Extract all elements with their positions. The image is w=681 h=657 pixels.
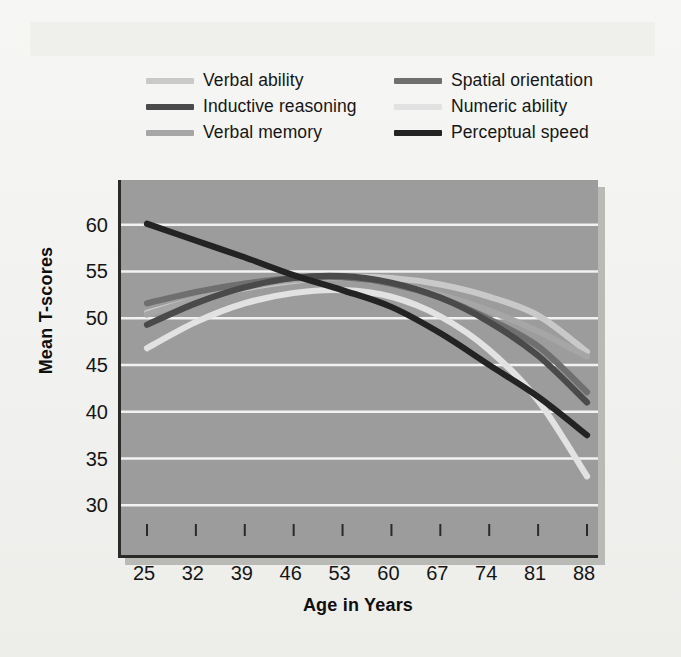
legend-item[interactable]: Numeric ability <box>394 94 604 120</box>
legend-swatch <box>394 78 442 84</box>
legend-label: Inductive reasoning <box>203 98 357 116</box>
legend-swatch <box>146 130 194 136</box>
plot-svg <box>121 180 598 555</box>
plot-area <box>118 180 598 558</box>
legend-label: Verbal ability <box>203 72 304 90</box>
y-axis-title: Mean T-scores <box>36 221 57 401</box>
page-artifact-band <box>30 22 655 56</box>
x-tick-label: 88 <box>573 562 595 585</box>
x-tick-label: 74 <box>475 562 497 585</box>
legend-swatch <box>146 104 194 110</box>
chart-legend: Verbal abilityInductive reasoningVerbal … <box>146 68 566 146</box>
y-tick-label: 45 <box>68 354 108 377</box>
legend-item[interactable]: Inductive reasoning <box>146 94 356 120</box>
legend-swatch <box>394 104 442 110</box>
chart-page: Verbal abilityInductive reasoningVerbal … <box>0 0 681 657</box>
legend-item[interactable]: Verbal ability <box>146 68 356 94</box>
legend-label: Numeric ability <box>451 98 567 116</box>
x-tick-label: 32 <box>182 562 204 585</box>
legend-swatch <box>394 130 442 136</box>
x-tick-label: 67 <box>426 562 448 585</box>
legend-column-left: Verbal abilityInductive reasoningVerbal … <box>146 68 356 146</box>
legend-label: Verbal memory <box>203 124 322 142</box>
legend-label: Perceptual speed <box>451 124 589 142</box>
legend-column-right: Spatial orientationNumeric abilityPercep… <box>394 68 604 146</box>
series-line <box>147 224 587 435</box>
y-tick-label: 60 <box>68 213 108 236</box>
legend-item[interactable]: Spatial orientation <box>394 68 604 94</box>
x-tick-label: 39 <box>231 562 253 585</box>
x-tick-label: 81 <box>524 562 546 585</box>
y-tick-label: 40 <box>68 400 108 423</box>
x-tick-label: 46 <box>280 562 302 585</box>
legend-label: Spatial orientation <box>451 72 593 90</box>
y-axis-tick-labels: 60555045403530 <box>62 180 108 558</box>
legend-item[interactable]: Verbal memory <box>146 120 356 146</box>
x-tick-label: 60 <box>377 562 399 585</box>
y-tick-label: 55 <box>68 260 108 283</box>
y-tick-label: 50 <box>68 307 108 330</box>
x-axis-title: Age in Years <box>118 595 598 616</box>
y-tick-label: 30 <box>68 494 108 517</box>
y-tick-label: 35 <box>68 447 108 470</box>
legend-item[interactable]: Perceptual speed <box>394 120 604 146</box>
plot-inner <box>121 180 598 555</box>
legend-swatch <box>146 78 194 84</box>
x-tick-label: 53 <box>328 562 350 585</box>
x-axis-tick-labels: 25323946536067748188 <box>118 562 598 596</box>
x-tick-label: 25 <box>133 562 155 585</box>
